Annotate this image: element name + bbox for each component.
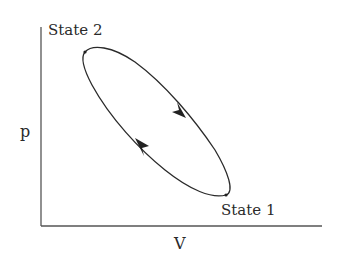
- y-axis-label: p: [20, 124, 30, 140]
- state-1-point: [224, 193, 227, 196]
- pv-diagram: [0, 0, 338, 267]
- state-1-label: State 1: [221, 203, 275, 218]
- state-2-label: State 2: [48, 23, 102, 38]
- cycle-path: [83, 47, 230, 196]
- arrow-down-icon: [172, 102, 186, 118]
- x-axis-label: V: [174, 236, 186, 252]
- arrow-up-icon: [135, 138, 149, 156]
- state-2-point: [83, 50, 86, 53]
